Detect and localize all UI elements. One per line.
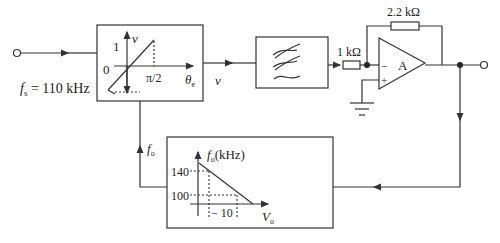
input-terminal xyxy=(14,50,98,57)
pd-origin: 0 xyxy=(103,62,110,77)
op-amp-minus: − xyxy=(381,60,387,72)
phase-detector-block xyxy=(97,25,203,101)
vco-tick-100: 100 xyxy=(171,189,189,203)
input-resistor-label: 1 kΩ xyxy=(337,45,361,59)
output-terminal xyxy=(481,62,488,69)
op-amp-gain: A xyxy=(398,58,408,73)
op-amp-plus: + xyxy=(381,74,387,86)
pll-diagram: fs = 110 kHz 1 v 0 π/2 θe v 1 kΩ 2.2 kΩ … xyxy=(0,0,500,243)
pd-tick-1: 1 xyxy=(113,39,120,54)
input-resistor xyxy=(343,61,360,69)
vco-tick-140: 140 xyxy=(171,165,189,179)
feedback-resistor-label: 2.2 kΩ xyxy=(387,5,420,19)
lowpass-filter-block xyxy=(256,37,328,88)
fo-label: fo xyxy=(147,141,155,158)
pd-y-label: v xyxy=(132,31,138,46)
vco-block xyxy=(167,137,333,228)
feedback-resistor xyxy=(391,22,419,30)
pd-x-tick: π/2 xyxy=(146,71,161,85)
vco-tick-vo: − 10 xyxy=(211,206,233,220)
pd-x-label: θe xyxy=(185,72,195,89)
vco-y-label: fo(kHz) xyxy=(207,147,245,164)
ground-icon xyxy=(350,103,374,115)
fs-label: fs = 110 kHz xyxy=(20,81,90,98)
vco-x-label: Vo xyxy=(262,209,274,226)
v-label: v xyxy=(215,73,221,88)
